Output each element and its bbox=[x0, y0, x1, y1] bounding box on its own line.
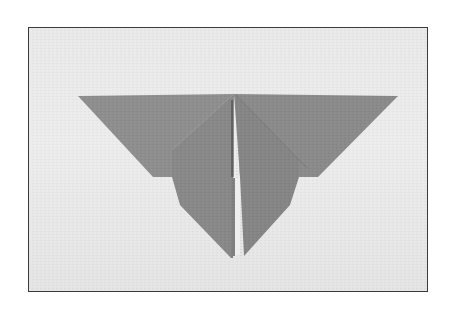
center-slit bbox=[235, 178, 240, 256]
photo-canvas bbox=[0, 0, 462, 317]
origami-butterfly-photo bbox=[0, 0, 462, 317]
